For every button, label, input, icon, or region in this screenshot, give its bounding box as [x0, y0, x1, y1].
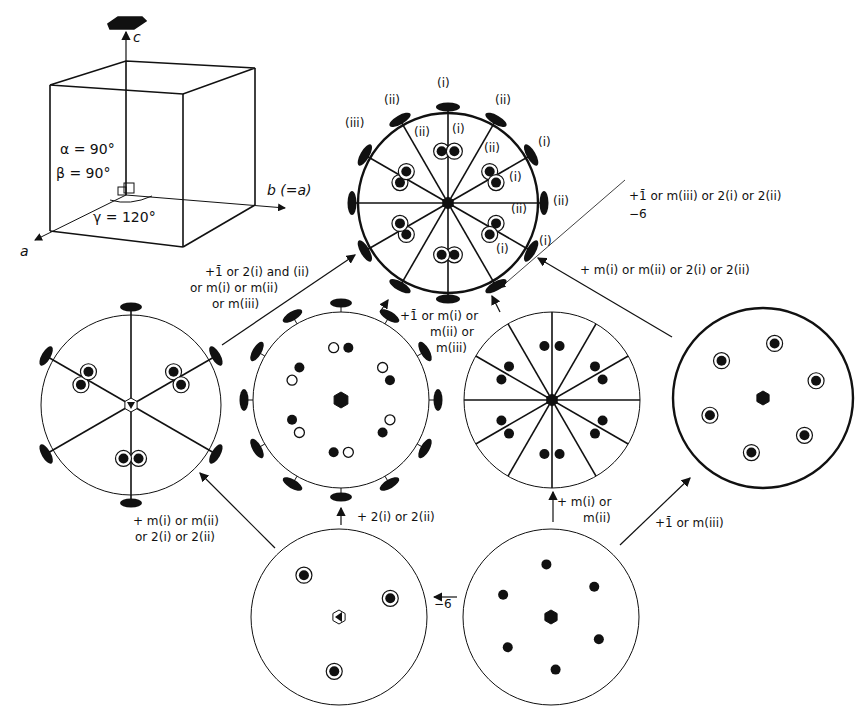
pole-filled: [496, 375, 506, 385]
pole-filled: [449, 146, 459, 156]
stereogram-622: [240, 299, 443, 502]
label-iii: (iii): [345, 116, 364, 130]
point-group-diagram: c b (=a) a α = 90° β = 90° γ = 120° (i) …: [0, 0, 866, 719]
beta-label: β = 90°: [56, 165, 110, 181]
annot-right-bottom: +1̄ or m(iii): [655, 516, 724, 530]
arrow-bottom-right-to-right: [620, 478, 690, 545]
pole-filled: [299, 570, 309, 580]
annot-right-lower-2: m(ii): [583, 511, 611, 525]
pole-filled: [589, 582, 599, 592]
twofold-axis-symbol: [240, 389, 249, 411]
twofold-axis-symbol: [330, 493, 352, 502]
twofold-axis-symbol: [281, 307, 305, 326]
annot-left-upper-1: +1̄ or 2(i) and (ii): [205, 265, 309, 279]
twofold-axis-symbol: [37, 442, 56, 466]
annot-left-upper-3: or m(iii): [212, 297, 259, 311]
pole-filled: [329, 447, 339, 457]
twofold-axis-symbol: [120, 303, 142, 312]
pole-filled: [76, 380, 86, 390]
hexagon-symbol: [547, 394, 557, 406]
pole-filled: [555, 341, 565, 351]
twofold-axis-symbol: [436, 103, 460, 112]
pole-filled: [176, 380, 186, 390]
twofold-axis-symbol: [378, 475, 402, 494]
label-i-top: (i): [437, 76, 450, 90]
pole-filled: [539, 341, 549, 351]
pole-filled: [541, 559, 551, 569]
axis-a-label: a: [20, 243, 29, 259]
annot-top-right-1: +1̄ or m(iii) or 2(i) or 2(ii): [629, 189, 781, 203]
annot-center-2: m(ii) or: [430, 325, 474, 339]
pole-filled: [401, 167, 411, 177]
pole-filled: [504, 429, 514, 439]
pole-filled: [395, 218, 405, 228]
label-ii-inner-right: (ii): [484, 141, 500, 155]
pole-open: [329, 343, 339, 353]
annot-left-upper-2: or m(i) or m(ii): [190, 281, 278, 295]
pole-filled: [811, 376, 821, 386]
annot-left-lower-1: + m(i) or m(ii): [133, 514, 219, 528]
pole-filled: [385, 593, 395, 603]
pole-filled: [437, 146, 447, 156]
pole-filled: [378, 428, 388, 438]
label-ii-right: (ii): [495, 93, 511, 107]
pole-filled: [343, 343, 353, 353]
pole-open: [385, 415, 395, 425]
pole-filled: [705, 410, 715, 420]
pole-filled: [770, 338, 780, 348]
pole-open: [378, 362, 388, 372]
pole-filled: [555, 449, 565, 459]
pole-filled: [504, 361, 514, 371]
arrows: [200, 180, 690, 597]
annot-center-3: m(iii): [436, 341, 467, 355]
pole-filled: [287, 415, 297, 425]
pole-filled: [503, 642, 513, 652]
top-circle-labels: (i) (ii) (ii) (iii) (ii) (i) (ii) (i) (i…: [345, 76, 569, 256]
label-ii-inner-mid: (ii): [511, 202, 527, 216]
stereogram-6: [463, 529, 639, 705]
pole-filled: [118, 453, 128, 463]
stereogram-6mm: [464, 312, 640, 488]
pole-open: [294, 428, 304, 438]
cell-top-face: [50, 61, 255, 94]
pole-filled: [590, 361, 600, 371]
pole-filled: [598, 375, 608, 385]
label-ii-left: (ii): [384, 93, 400, 107]
twofold-axis-symbol: [348, 191, 357, 215]
twofold-axis-symbol: [248, 340, 267, 364]
pole-filled: [590, 429, 600, 439]
pole-filled: [329, 666, 339, 676]
label-i-right-lower: (i): [539, 234, 552, 248]
twofold-axis-symbol: [248, 437, 267, 461]
pole-open: [287, 375, 297, 385]
pole-filled: [294, 362, 304, 372]
pole-filled: [551, 665, 561, 675]
pole-filled: [498, 590, 508, 600]
twofold-axis-symbol: [416, 340, 435, 364]
alpha-label: α = 90°: [60, 141, 115, 157]
pole-filled: [717, 356, 727, 366]
pole-filled: [598, 415, 608, 425]
pole-open: [343, 447, 353, 457]
unit-cell: [35, 17, 285, 247]
pole-filled: [437, 250, 447, 260]
pole-filled: [496, 415, 506, 425]
pole-filled: [799, 430, 809, 440]
label-ii-inner-left: (ii): [414, 125, 430, 139]
arrow-12-to-top: [492, 296, 500, 312]
pole-filled: [539, 449, 549, 459]
twofold-axis-symbol: [206, 344, 225, 368]
axis-b-label: b (=a): [267, 182, 312, 198]
gamma-label: γ = 120°: [93, 209, 156, 225]
twofold-axis-symbol: [416, 437, 435, 461]
twofold-axis-symbol: [281, 475, 305, 494]
twofold-axis-symbol: [330, 299, 352, 308]
twofold-axis-symbol: [206, 442, 225, 466]
twofold-axis-symbol: [120, 499, 142, 508]
pole-filled: [134, 453, 144, 463]
annot-left-lower-2: or 2(i) or 2(ii): [135, 530, 215, 544]
hexagon-symbol: [757, 391, 769, 405]
label-i-inner-right: (i): [509, 170, 522, 184]
annot-right-lower-1: + m(i) or: [557, 495, 611, 509]
stereogram-6bar: [251, 529, 427, 705]
